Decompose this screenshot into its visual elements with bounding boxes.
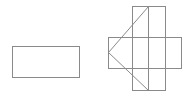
cross-figure bbox=[109, 7, 182, 91]
lower-diagonal-line bbox=[109, 53, 149, 91]
upper-diagonal-line bbox=[109, 7, 149, 53]
horizontal-rectangle bbox=[109, 38, 182, 69]
diagram-canvas bbox=[0, 0, 195, 95]
standalone-rectangle bbox=[13, 47, 80, 78]
